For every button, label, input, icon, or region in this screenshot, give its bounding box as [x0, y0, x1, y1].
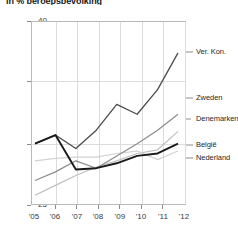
series-label-denemarken: Denemarken	[196, 115, 238, 123]
x-axis-tick-06: '06	[43, 213, 67, 221]
gridline-vertical-10	[142, 22, 143, 204]
x-tick-mark-07	[76, 205, 77, 209]
x-axis-tick-12: '12	[172, 213, 196, 221]
x-tick-mark-10	[141, 205, 142, 209]
gridline-vertical-09	[120, 22, 121, 204]
x-axis-tick-08: '08	[86, 213, 110, 221]
chart-title: in % beroepsbevolking	[6, 0, 206, 5]
gridline-vertical-11	[163, 22, 164, 204]
series-label-belgie: België	[196, 141, 217, 149]
series-label-ver-kon: Ver. Kon.	[196, 48, 226, 56]
x-tick-mark-11	[162, 205, 163, 209]
series-label-nederland: Nederland	[196, 154, 230, 162]
gridline-vertical-08	[99, 22, 100, 204]
gridline-vertical-06	[56, 22, 57, 204]
x-tick-mark-08	[98, 205, 99, 209]
gridline-vertical-07	[77, 22, 78, 204]
gridline-vertical-12	[185, 22, 186, 204]
y-tick-mark-25	[27, 205, 31, 206]
x-tick-mark-06	[55, 205, 56, 209]
plot-area	[31, 21, 186, 205]
chart-container: in % beroepsbevolking 40 35 30 25 '05 '0…	[0, 0, 238, 237]
x-tick-mark-09	[119, 205, 120, 209]
series-label-zweden: Zweden	[196, 94, 222, 102]
x-axis-tick-10: '10	[129, 213, 153, 221]
